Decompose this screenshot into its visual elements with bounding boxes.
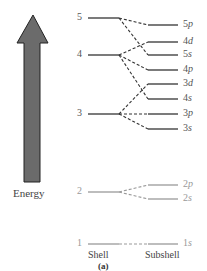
connector-line	[119, 192, 148, 199]
connector-line	[119, 114, 148, 129]
subshell-label: 2p	[183, 179, 193, 189]
subshell-label: 1s	[183, 238, 192, 248]
connector-line	[119, 55, 148, 70]
energy-axis-label: Energy	[13, 188, 45, 198]
shell-label: 2	[77, 186, 82, 196]
shell-label: 3	[77, 108, 82, 118]
shell-label: 5	[77, 12, 82, 22]
connector-line	[119, 42, 148, 55]
subshell-label: 4d	[183, 36, 193, 46]
shell-label: 4	[77, 49, 82, 59]
subshell-label: 3p	[183, 108, 193, 118]
connector-line	[119, 84, 148, 114]
shell-label: 1	[77, 238, 82, 248]
subshell-label: 5s	[183, 49, 192, 59]
subshell-label: 3s	[183, 123, 192, 133]
subshell-label: 5p	[183, 19, 193, 29]
shell-column-label: Shell	[88, 250, 109, 260]
subshell-label: 3d	[183, 78, 193, 88]
connector-line	[119, 185, 148, 192]
subshell-label: 2s	[183, 193, 192, 203]
figure-caption: (a)	[98, 261, 109, 271]
subshell-column-label: Subshell	[145, 250, 179, 260]
subshell-label: 4p	[183, 64, 193, 74]
energy-arrow-icon	[17, 15, 48, 182]
connector-line	[119, 55, 148, 99]
subshell-label: 4s	[183, 93, 192, 103]
